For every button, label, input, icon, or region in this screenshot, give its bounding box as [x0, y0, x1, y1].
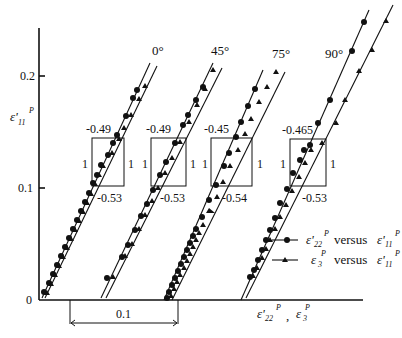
slope-left-45deg: 1 [142, 157, 148, 171]
slope-right-0deg: 1 [128, 157, 134, 171]
y-label-symbol: ε' [10, 109, 18, 124]
slope-bottom-75deg: -0.54 [222, 191, 247, 205]
angle-label-90deg: 90° [325, 46, 343, 61]
y-axis-label: ε' 11 P [10, 106, 34, 127]
angle-label-45deg: 45° [211, 43, 229, 58]
legend-row2-sub-b: 11 [385, 260, 392, 269]
legend-row1-sup: P [323, 229, 329, 238]
x-label-b: ε [296, 306, 302, 321]
x-scale-bar-label: 0.1 [116, 307, 131, 321]
legend-row1-sub-b: 11 [385, 240, 392, 249]
strain-ratio-chart: 0.2 0.1 0 ε' 11 P 0.1 ε' 22 P , ε 3 P [0, 0, 402, 338]
x-label-a-sub: 22 [265, 314, 273, 323]
legend-row2-symbol-b: ε' [377, 252, 385, 267]
legend-row2-versus: versus [334, 252, 367, 267]
x-label-a-sup: P [275, 303, 281, 312]
slope-top-0deg: -0.49 [86, 122, 111, 136]
legend-row2-sup-b: P [394, 249, 400, 258]
x-label-sep: , [286, 308, 289, 323]
slope-left-0deg: 1 [82, 157, 88, 171]
y-tick-label-0.2: 0.2 [20, 69, 35, 83]
slope-bottom-90deg: -0.53 [302, 191, 327, 205]
legend-row1-symbol-b: ε' [377, 232, 385, 247]
x-label-b-sup: P [304, 303, 310, 312]
slope-left-90deg: 1 [280, 157, 286, 171]
x-axis-label: ε' 22 P , ε 3 P [257, 303, 310, 323]
angle-label-75deg: 75° [272, 46, 290, 61]
legend-item-triangle: ε 3 P versus ε' 11 P [272, 249, 400, 269]
legend-row2-sub: 3 [317, 260, 322, 269]
legend: ε' 22 P versus ε' 11 P ε 3 P versus ε' 1… [272, 229, 400, 269]
line-45deg-triangle [106, 68, 222, 298]
slope-bottom-45deg: -0.53 [160, 191, 185, 205]
slope-bottom-0deg: -0.53 [97, 191, 122, 205]
y-tick-label-0.1: 0.1 [18, 181, 33, 195]
legend-circle-marker [284, 237, 290, 243]
legend-row2-symbol: ε [311, 252, 317, 267]
slope-right-75deg: 1 [257, 157, 263, 171]
slope-top-45deg: -0.49 [146, 122, 171, 136]
x-label-b-sub: 3 [302, 314, 307, 323]
slope-left-75deg: 1 [202, 157, 208, 171]
legend-row1-versus: versus [334, 232, 367, 247]
legend-row1-symbol: ε' [306, 232, 314, 247]
y-tick-label-0: 0 [26, 293, 32, 307]
legend-row2-sup: P [320, 249, 326, 258]
y-label-sup: P [28, 106, 34, 115]
y-label-sub: 11 [18, 118, 25, 127]
x-label-a: ε' [257, 306, 265, 321]
slope-top-75deg: -0.45 [204, 122, 229, 136]
legend-row1-sup-b: P [394, 229, 400, 238]
slope-right-90deg: 1 [330, 157, 336, 171]
slope-right-45deg: 1 [190, 157, 196, 171]
angle-label-0deg: 0° [152, 43, 164, 58]
legend-row1-sub: 22 [314, 240, 322, 249]
legend-item-circle: ε' 22 P versus ε' 11 P [272, 229, 400, 249]
slope-top-90deg: -0.465 [282, 123, 313, 137]
